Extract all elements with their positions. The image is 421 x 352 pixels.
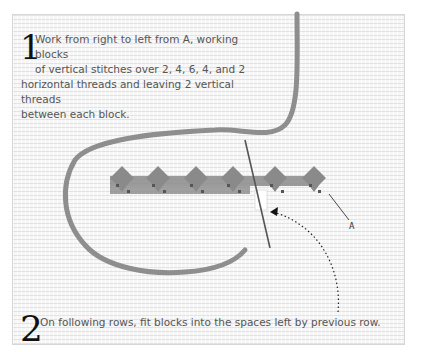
step-1-line-2: of vertical stitches over 2, 4, 6, 4, an… xyxy=(21,62,251,77)
point-a-label: A xyxy=(349,221,354,231)
arrowhead-icon xyxy=(270,207,278,216)
step-1-text: Work from right to left from A, working … xyxy=(21,32,251,122)
leader-line-a xyxy=(329,194,349,220)
step-1-line-4: between each block. xyxy=(21,107,251,122)
step-1-line-1: Work from right to left from A, working … xyxy=(21,32,251,62)
step-2-text: On following rows, fit blocks into the s… xyxy=(40,315,400,330)
step-1-line-3: horizontal threads and leaving 2 vertica… xyxy=(21,77,251,107)
stitch-blocks xyxy=(110,166,326,194)
dotted-arrow xyxy=(273,212,338,312)
